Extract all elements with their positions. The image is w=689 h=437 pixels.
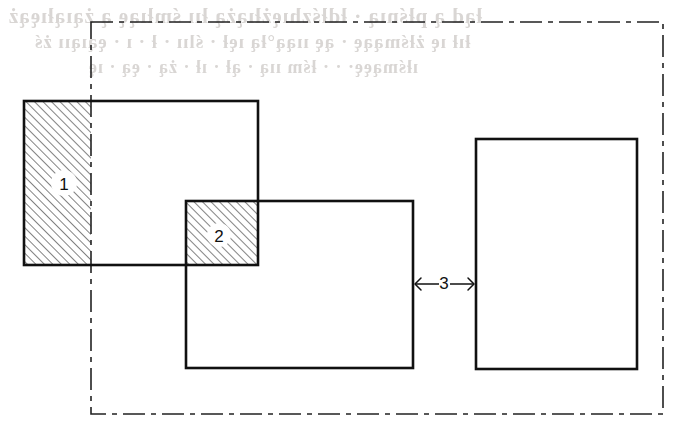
chain-line-boundary: [91, 22, 663, 414]
diagram-page: łąd ą płśnıą · łdłśzhıężłıążą łıı śmłıąę…: [0, 0, 689, 437]
technical-drawing-svg: 1 2 3: [0, 0, 689, 437]
rectangle-c: [476, 139, 637, 369]
dimension-3-label: 3: [439, 274, 448, 293]
region-label-2: 2: [214, 227, 223, 246]
region-label-1: 1: [59, 175, 68, 194]
dimension-3-group: 3: [415, 274, 474, 293]
